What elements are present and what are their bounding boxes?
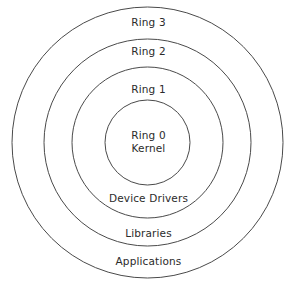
label-ring-2: Ring 2: [0, 45, 297, 58]
label-ring-3: Ring 3: [0, 16, 297, 29]
label-ring-0: Ring 0: [0, 129, 297, 142]
label-kernel-group: Ring 0 Kernel: [0, 129, 297, 155]
label-kernel: Kernel: [0, 142, 297, 155]
label-applications: Applications: [0, 255, 297, 268]
label-libraries: Libraries: [0, 227, 297, 240]
label-ring-1: Ring 1: [0, 83, 297, 96]
label-device-drivers: Device Drivers: [0, 192, 297, 205]
protection-rings-diagram: Ring 3 Ring 2 Ring 1 Ring 0 Kernel Devic…: [0, 0, 297, 287]
